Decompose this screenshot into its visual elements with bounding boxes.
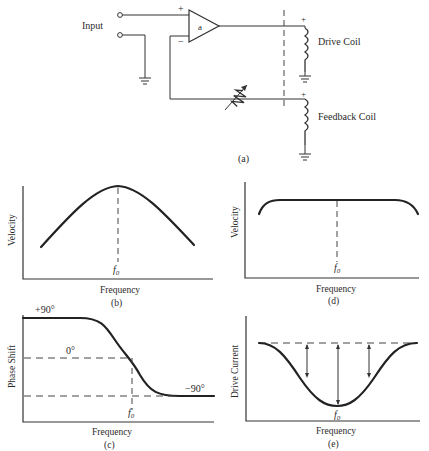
caption-b: (b) [111,298,122,309]
ground-icon [139,78,151,84]
minus-input-sign: − [178,36,184,47]
y-axis-label: Drive Current [230,345,240,398]
caption-a: (a) [238,153,249,165]
panel-e: f0 Frequency (e) Drive Current [230,316,420,450]
velocity-curve [41,186,194,247]
caption-e: (e) [328,439,339,450]
feedback-coil-polarity: + [301,89,306,99]
x-axis-label: Frequency [92,427,132,437]
input-label: Input [82,20,103,31]
x-axis-label: Frequency [100,285,140,295]
variable-resistor-icon [225,85,248,110]
amplifier-icon [189,10,219,42]
ground-icon [299,145,311,160]
caption-d: (d) [328,296,339,307]
f0-label: f0 [334,409,341,422]
drive-coil-polarity: + [301,14,306,24]
f0-label: f0 [113,264,120,277]
output-wire [219,26,305,28]
zero-deg-label: 0° [66,345,75,356]
axes [245,182,419,278]
f0-label: f0 [334,262,341,275]
panel-c: +90° 0° −90° f0 Frequency (c) Phase Shif… [7,304,214,451]
x-axis-label: Frequency [316,426,356,436]
drive-coil-icon [305,28,308,72]
ground-icon [299,72,311,82]
feedback-coil-label: Feedback Coil [318,111,376,122]
feedback-coil-icon [305,99,308,145]
y-axis-label: Phase Shift [7,345,17,388]
figure-canvas: Input a + − + Drive Coil [0,0,429,451]
velocity-curve [259,200,418,214]
schematic: Input a + − + Drive Coil [82,3,376,165]
amplifier-label: a [198,22,202,32]
drive-coil-label: Drive Coil [318,36,361,47]
plus90-label: +90° [35,304,55,315]
minus90-label: −90° [185,383,205,394]
f0-label: f0 [128,407,135,420]
input-terminal-top [118,13,123,18]
input-terminal-bottom [118,33,123,38]
ground-wire [123,35,146,78]
x-axis-label: Frequency [316,284,356,294]
y-axis-label: Velocity [230,206,240,238]
panel-d: f0 Frequency (d) Velocity [230,182,419,307]
plus-input-sign: + [178,3,184,14]
y-axis-label: Velocity [7,214,17,246]
panel-b: f0 Frequency (b) Velocity [7,186,213,309]
axes [23,315,214,422]
caption-c: (c) [104,440,115,451]
